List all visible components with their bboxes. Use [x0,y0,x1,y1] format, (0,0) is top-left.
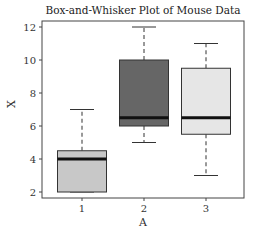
box-3 [182,44,231,176]
boxes-group [58,27,231,192]
chart-title: Box-and-Whisker Plot of Mouse Data [45,4,240,16]
x-axis-label: A [138,216,148,229]
y-tick-label: 10 [23,55,36,66]
y-tick-label: 4 [30,154,36,165]
x-axis: 123 [79,198,209,214]
box-plot-chart: Box-and-Whisker Plot of Mouse Data 24681… [0,0,253,233]
x-tick-label: 3 [203,203,209,214]
y-tick-label: 6 [30,121,36,132]
y-axis-label: X [5,100,18,108]
box-2 [120,27,169,143]
y-tick-label: 8 [30,88,36,99]
y-tick-label: 12 [23,22,36,33]
box-1 [58,110,107,193]
y-tick-label: 2 [30,187,36,198]
x-tick-label: 1 [79,203,85,214]
x-tick-label: 2 [141,203,147,214]
iqr-box [182,68,231,134]
iqr-box [58,151,107,192]
y-axis: 24681012 [23,22,42,198]
iqr-box [120,60,169,126]
